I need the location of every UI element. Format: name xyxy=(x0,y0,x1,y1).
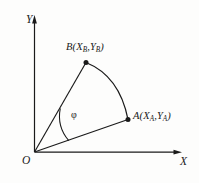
point-a-label: A(XA,YA) xyxy=(133,111,171,122)
point-b-x-symbol: X xyxy=(76,41,83,52)
arc-b-to-a xyxy=(86,63,128,120)
point-a-y-symbol: Y xyxy=(157,110,163,121)
angle-arc-phi xyxy=(60,108,69,140)
segment-origin-to-a xyxy=(35,120,129,153)
point-b-y-symbol: Y xyxy=(90,41,96,52)
point-b-paren-close: ) xyxy=(100,41,104,52)
point-marker-a xyxy=(126,117,131,122)
segment-origin-to-b xyxy=(35,63,87,153)
point-a-paren-close: ) xyxy=(167,110,171,121)
x-axis-arrowhead xyxy=(174,150,183,155)
point-a-x-symbol: X xyxy=(143,110,150,121)
angle-phi-label: φ xyxy=(71,110,77,120)
point-a-y-subscript: A xyxy=(163,115,168,123)
y-axis-arrowhead xyxy=(32,15,37,24)
y-axis-label: Y xyxy=(26,14,32,26)
point-marker-b xyxy=(84,60,89,65)
figure-canvas: Y X O B(XB,YB) A(XA,YA) φ xyxy=(0,0,199,183)
point-b-y-subscript: B xyxy=(96,46,101,54)
point-b-x-subscript: B xyxy=(83,46,88,54)
x-axis-label: X xyxy=(180,156,187,168)
origin-label: O xyxy=(22,155,30,167)
x-axis xyxy=(35,150,183,155)
point-b-label: B(XB,YB) xyxy=(66,42,104,53)
point-a-x-subscript: A xyxy=(150,115,155,123)
y-axis xyxy=(32,15,37,152)
